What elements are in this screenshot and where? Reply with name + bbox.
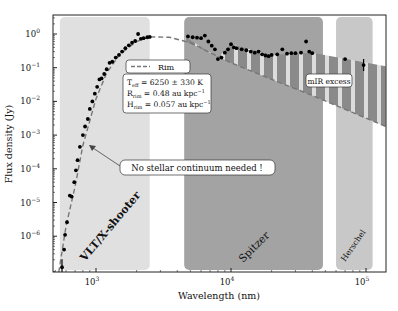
data-point bbox=[310, 51, 314, 55]
data-point bbox=[148, 35, 152, 39]
data-point bbox=[102, 72, 106, 76]
data-point bbox=[275, 52, 279, 56]
data-point bbox=[249, 50, 253, 54]
data-point bbox=[127, 43, 131, 47]
data-point bbox=[199, 36, 203, 40]
data-point bbox=[235, 46, 239, 50]
data-point bbox=[257, 50, 261, 54]
data-point bbox=[95, 85, 99, 89]
data-point bbox=[83, 125, 87, 129]
data-point bbox=[264, 54, 268, 58]
data-point bbox=[123, 46, 127, 50]
data-point bbox=[117, 53, 121, 57]
band-herschel bbox=[336, 17, 373, 270]
data-point bbox=[253, 51, 257, 55]
data-point bbox=[90, 100, 94, 104]
y-tick-label: 10−2 bbox=[20, 94, 40, 106]
y-tick-label: 100 bbox=[25, 27, 40, 39]
data-point bbox=[223, 51, 227, 55]
data-point bbox=[216, 57, 220, 61]
data-point bbox=[65, 220, 69, 224]
sed-chart: VLT/X-shooterSpitzerHerschel 10310410510… bbox=[0, 0, 398, 311]
data-point bbox=[260, 52, 264, 56]
data-point bbox=[270, 53, 274, 57]
annotation-mir-excess: mIR excess bbox=[307, 77, 350, 86]
data-point bbox=[70, 195, 74, 199]
data-point bbox=[304, 40, 308, 44]
data-point bbox=[62, 248, 66, 252]
data-point bbox=[142, 36, 146, 40]
data-point bbox=[72, 180, 76, 184]
data-point bbox=[186, 34, 190, 38]
data-point bbox=[114, 56, 118, 60]
svg-text:Rim: Rim bbox=[158, 63, 175, 72]
y-axis-label: Flux density (Jy) bbox=[3, 105, 14, 184]
data-point bbox=[81, 133, 85, 137]
data-point bbox=[210, 44, 214, 48]
data-point bbox=[244, 48, 248, 52]
data-point bbox=[226, 47, 230, 51]
data-point bbox=[343, 57, 347, 61]
data-point bbox=[88, 107, 92, 111]
x-tick-label: 103 bbox=[85, 275, 100, 287]
y-tick-label: 10−3 bbox=[20, 128, 40, 140]
data-point bbox=[229, 42, 233, 46]
data-point bbox=[289, 51, 293, 55]
data-point bbox=[240, 47, 244, 51]
data-point bbox=[195, 36, 199, 40]
data-point bbox=[206, 40, 210, 44]
data-point bbox=[120, 50, 124, 54]
data-point bbox=[76, 158, 80, 162]
data-point bbox=[285, 52, 289, 56]
data-point bbox=[213, 47, 217, 51]
data-point bbox=[280, 47, 284, 51]
data-point bbox=[110, 60, 114, 64]
y-tick-label: 10−4 bbox=[20, 162, 40, 174]
y-tick-label: 10−6 bbox=[20, 229, 40, 241]
data-point bbox=[86, 117, 90, 121]
annotation-continuum: No stellar continuum needed ! bbox=[131, 163, 263, 173]
data-point bbox=[78, 145, 82, 149]
data-point bbox=[136, 32, 140, 36]
data-point bbox=[191, 35, 195, 39]
data-point bbox=[93, 92, 97, 96]
data-point bbox=[294, 51, 298, 55]
y-tick-label: 10−1 bbox=[20, 61, 40, 73]
x-tick-label: 104 bbox=[220, 275, 235, 287]
data-point bbox=[74, 168, 78, 172]
data-point bbox=[100, 77, 104, 81]
data-point bbox=[63, 233, 67, 237]
data-point bbox=[133, 39, 137, 43]
data-point bbox=[220, 56, 224, 60]
legend-param: Teff = 6250 ± 330 K bbox=[127, 78, 203, 88]
x-axis-label: Wavelength (nm) bbox=[178, 290, 260, 301]
y-tick-label: 10−5 bbox=[20, 196, 40, 208]
x-tick-label: 105 bbox=[355, 275, 370, 287]
data-point bbox=[105, 67, 109, 71]
data-point bbox=[299, 51, 303, 55]
data-point bbox=[203, 34, 207, 38]
